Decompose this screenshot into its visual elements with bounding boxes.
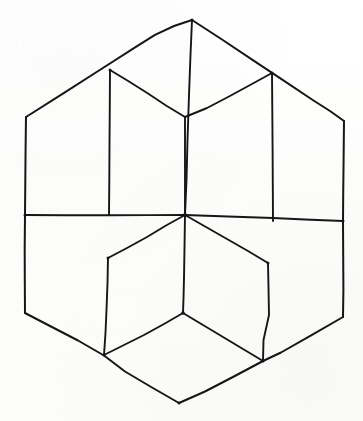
interior-line-lower-left-inner-vertical <box>104 258 108 355</box>
interior-line-bottom-inner-to-right-edge <box>183 313 263 361</box>
line-drawing-canvas: Tumbling blocks / Necker cube hexagon il… <box>0 0 363 421</box>
interior-line-bottom-inner-to-left-edge <box>104 313 183 355</box>
vertex-blob-center-junction <box>183 213 187 217</box>
interior-line-upper-left-inner-to-upper-diagonal <box>110 70 185 117</box>
interior-line-center-to-lower-right-inner <box>185 215 268 263</box>
vertex-blob-lower-left-inner <box>107 257 110 260</box>
vertex-blob-upper-left-inner <box>109 69 112 72</box>
interior-line-upper-right-inner-diagonal <box>185 73 272 117</box>
interior-line-lower-right-inner-vertical <box>263 263 269 361</box>
interior-line-upper-right-inner-vertical <box>272 73 273 221</box>
vertex-ink-blobs-group <box>24 18 345 404</box>
interior-line-center-to-lower-left-inner <box>108 215 185 258</box>
vertex-blob-right-middle <box>342 220 345 223</box>
vertex-blob-lower-right-inner <box>267 262 270 265</box>
hexagon-edge-top-right <box>192 20 344 121</box>
figure-root: Tumbling blocks / Necker cube hexagon il… <box>0 0 363 421</box>
interior-line-upper-left-inner-vertical <box>109 70 110 215</box>
vertex-blob-upper-right-inner <box>271 72 274 75</box>
interior-line-right-middle-to-center <box>185 215 343 221</box>
vertex-blob-bottom-inner <box>181 311 185 315</box>
interior-line-center-to-bottom-inner <box>183 215 185 313</box>
hexagon-edge-right <box>343 121 344 317</box>
vertex-blob-top-apex <box>190 18 193 21</box>
vertex-blob-bottom-apex <box>178 402 181 405</box>
vertex-blob-bottom-right-edge <box>262 360 265 363</box>
hexagon-edge-bottom-left <box>25 313 179 403</box>
vertex-blob-left-middle <box>24 214 27 217</box>
interior-lines-group <box>25 20 343 361</box>
vertex-blob-bottom-left-edge <box>103 354 106 357</box>
